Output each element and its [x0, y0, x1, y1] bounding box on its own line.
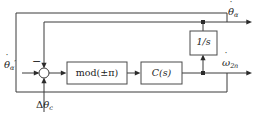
summing-junction-circle[interactable]: [39, 68, 49, 78]
rate-output-symbol: ˙ ω: [222, 57, 230, 68]
reference-input-label: ˙ θ α′: [4, 58, 16, 72]
disturbance-input-label: Δθc: [36, 99, 53, 112]
inner-feedback-path: [44, 22, 203, 64]
reference-input-prime: ′: [14, 58, 16, 67]
mod-block-label: mod(±π): [67, 67, 127, 78]
rate-output-label: ˙ ω 2n: [222, 57, 238, 70]
lower-tap-junction-dot: [201, 71, 205, 75]
block-diagram-canvas: mod(±π) C(s) 1/s − ˙ θ α′ Δθc ˙ θ α ˙ ω …: [0, 0, 260, 120]
rate-output-subscript: 2n: [230, 62, 238, 70]
angle-output-arrowhead: [246, 19, 252, 24]
angle-output-subscript: α: [234, 11, 238, 19]
upper-tap-junction-dot: [201, 20, 205, 24]
mod-to-controller-arrowhead: [135, 70, 141, 75]
controller-block-label: C(s): [141, 67, 182, 78]
reference-input-symbol: ˙ θ: [4, 59, 10, 70]
summing-junction-minus-sign: −: [32, 56, 41, 67]
angle-output-label: ˙ θ α: [228, 6, 238, 19]
angle-output-symbol: ˙ θ: [228, 6, 234, 17]
integrator-block-label: 1/s: [190, 36, 217, 47]
rate-output-arrowhead: [246, 70, 252, 75]
sum-to-mod-arrowhead: [61, 70, 67, 75]
disturbance-input-subscript: c: [49, 104, 52, 112]
